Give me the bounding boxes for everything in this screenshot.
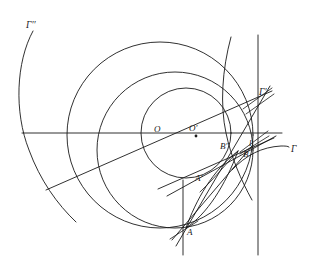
short-tick-near-A — [170, 221, 198, 239]
secant-through-A-prime-lower — [158, 138, 274, 189]
geometry-canvas: Γ′′ Γ′ Γ O O′ A A′ B B′ l — [0, 0, 312, 271]
geometry-figure: Γ′′ Γ′ Γ O O′ A A′ B B′ l — [0, 0, 312, 271]
large-circle-O — [67, 42, 253, 228]
arc-lens-inner — [200, 151, 238, 192]
label-point-A: A — [186, 227, 193, 237]
arc-gamma — [232, 146, 289, 170]
label-center-O: O — [154, 124, 161, 134]
label-gamma-prime: Γ′ — [258, 87, 267, 97]
label-point-B: B — [243, 149, 249, 159]
label-point-A-prime: A′ — [194, 173, 203, 183]
label-point-B-prime: B′ — [220, 141, 228, 151]
circle-through-A-B — [97, 72, 253, 228]
point-O-prime-dot — [195, 135, 198, 138]
label-gamma-double-prime: Γ′′ — [25, 20, 36, 30]
label-center-O-prime: O′ — [189, 123, 198, 133]
label-gamma: Γ — [290, 144, 297, 154]
